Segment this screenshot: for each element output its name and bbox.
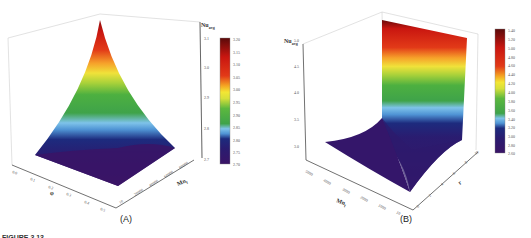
svg-text:2.90: 2.90 xyxy=(233,113,240,118)
svg-text:2.85: 2.85 xyxy=(233,125,240,130)
svg-text:3.20: 3.20 xyxy=(233,37,240,42)
panel-a-label: (A) xyxy=(120,214,132,224)
x-tick: 0.5 xyxy=(100,206,107,213)
panel-a-colorbar-ticks: 3.20 3.15 3.10 3.05 3.00 2.95 2.90 2.85 … xyxy=(233,37,240,167)
panel-b-colorbar-ticks: 5.40 5.20 5.00 4.80 4.60 4.40 4.20 4.00 … xyxy=(508,28,515,156)
svg-text:3.15: 3.15 xyxy=(233,50,240,55)
svg-text:2.95: 2.95 xyxy=(233,100,240,105)
svg-text:2.60: 2.60 xyxy=(508,151,515,156)
svg-text:5.00: 5.00 xyxy=(508,46,515,51)
svg-text:4.60: 4.60 xyxy=(508,63,515,68)
x-tick: 0.0 xyxy=(12,169,19,176)
panel-b: 3.0 3.5 4.0 4.5 5.0 Nuavg 5000 4000 3000… xyxy=(284,12,515,224)
svg-text:3.10: 3.10 xyxy=(233,62,240,67)
y-tick: 40000 xyxy=(148,178,159,188)
panel-a-colorbar xyxy=(220,38,230,164)
panel-b-x-label: Mnf xyxy=(335,197,348,208)
panel-b-colorbar xyxy=(495,29,505,153)
x-tick: 4000 xyxy=(323,178,332,186)
panel-a-x-label: φ xyxy=(50,190,54,196)
z-tick: 4.5 xyxy=(294,64,299,69)
x-tick: 2000 xyxy=(360,195,369,203)
svg-text:4.80: 4.80 xyxy=(508,55,515,60)
svg-text:3.00: 3.00 xyxy=(508,134,515,139)
x-tick: 0.3 xyxy=(66,191,73,198)
panel-a-y-label: Mnf xyxy=(176,177,189,189)
z-tick: 2.8 xyxy=(204,126,209,131)
svg-text:5.20: 5.20 xyxy=(508,37,515,42)
z-tick: 3.0 xyxy=(294,144,299,149)
y-tick: 80000 xyxy=(178,160,189,170)
z-tick: 2.9 xyxy=(204,95,209,100)
x-tick: 5000 xyxy=(305,169,314,177)
z-tick: 4.0 xyxy=(294,90,299,95)
svg-text:3.40: 3.40 xyxy=(508,117,515,122)
panel-a: 2.7 2.8 2.9 3.0 3.1 Nuavg 10 20000 40000… xyxy=(8,14,240,224)
x-tick: 0.1 xyxy=(30,176,37,183)
z-tick: 2.7 xyxy=(204,157,209,162)
z-tick: 3.0 xyxy=(204,65,209,70)
svg-text:2.75: 2.75 xyxy=(233,150,240,155)
svg-text:5.40: 5.40 xyxy=(508,28,515,33)
svg-text:2.80: 2.80 xyxy=(233,138,240,143)
svg-text:2.80: 2.80 xyxy=(508,143,515,148)
panel-a-z-ticks: 2.7 2.8 2.9 3.0 3.1 xyxy=(204,36,209,162)
x-tick: 1000 xyxy=(378,203,387,211)
svg-text:2.70: 2.70 xyxy=(233,162,240,167)
svg-text:4.40: 4.40 xyxy=(508,72,515,77)
svg-text:4.20: 4.20 xyxy=(508,81,515,86)
svg-text:3.80: 3.80 xyxy=(508,99,515,104)
panel-a-z-label: Nuavg xyxy=(201,22,215,30)
x-tick: 3000 xyxy=(342,187,351,195)
figure-canvas: 2.7 2.8 2.9 3.0 3.1 Nuavg 10 20000 40000… xyxy=(0,0,531,238)
panel-b-y-label: r xyxy=(457,179,463,186)
svg-text:3.20: 3.20 xyxy=(508,125,515,130)
svg-text:4.00: 4.00 xyxy=(508,90,515,95)
z-tick: 3.1 xyxy=(204,36,209,41)
panel-b-label: (B) xyxy=(400,214,412,224)
svg-text:3.05: 3.05 xyxy=(233,75,240,80)
y-tick: 20000 xyxy=(133,187,144,197)
y-tick: 60000 xyxy=(163,169,174,179)
x-tick: 0.4 xyxy=(84,199,91,206)
svg-text:3.60: 3.60 xyxy=(508,108,515,113)
svg-text:3.00: 3.00 xyxy=(233,87,240,92)
figure-caption: FIGURE 3.13 xyxy=(2,234,44,238)
z-tick: 3.5 xyxy=(294,117,299,122)
